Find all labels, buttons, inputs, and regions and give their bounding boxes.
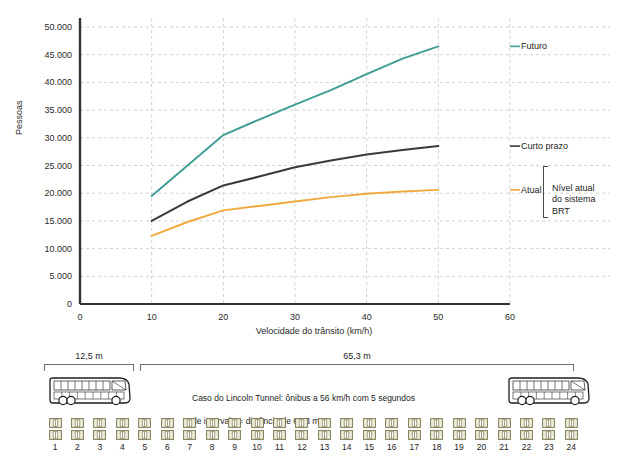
car-number-label: 1 (44, 442, 66, 452)
car-column: 22 (515, 418, 537, 452)
car-top-view-icon (251, 418, 264, 428)
car-top-view-icon (228, 418, 241, 428)
series-label-curto-prazo: Curto prazo (521, 141, 568, 151)
car-top-view-icon (273, 430, 286, 440)
car-top-view-icon (49, 430, 62, 440)
car-number-label: 22 (515, 442, 537, 452)
car-top-view-icon (565, 418, 578, 428)
car-number-label: 3 (89, 442, 111, 452)
car-column: 4 (111, 418, 133, 452)
car-top-view-icon (93, 430, 106, 440)
x-axis-title: Velocidade do trânsito (km/h) (0, 326, 618, 336)
car-top-view-icon (138, 418, 151, 428)
car-column: 19 (448, 418, 470, 452)
car-number-label: 6 (156, 442, 178, 452)
brt-brace (543, 166, 548, 218)
car-column: 2 (66, 418, 88, 452)
car-number-label: 7 (179, 442, 201, 452)
car-top-view-icon (228, 430, 241, 440)
brt-annotation-text: Nível atual do sistema BRT (552, 183, 596, 218)
car-top-view-icon (183, 418, 196, 428)
car-number-label: 18 (426, 442, 448, 452)
car-top-view-icon (93, 418, 106, 428)
car-number-label: 13 (313, 442, 335, 452)
car-column: 20 (471, 418, 493, 452)
car-top-view-icon (542, 430, 555, 440)
brt-note-line-3: BRT (552, 206, 596, 218)
car-top-view-icon (453, 430, 466, 440)
car-number-label: 20 (471, 442, 493, 452)
car-column: 24 (560, 418, 582, 452)
car-top-view-icon (183, 430, 196, 440)
car-column: 15 (358, 418, 380, 452)
car-column: 17 (403, 418, 425, 452)
car-column: 7 (179, 418, 201, 452)
car-top-view-icon (295, 418, 308, 428)
car-row-group: 123456789101112131415161718192021222324 (0, 345, 618, 474)
car-top-view-icon (116, 430, 129, 440)
car-top-view-icon (475, 430, 488, 440)
gridlines (80, 18, 610, 304)
car-number-label: 10 (246, 442, 268, 452)
car-top-view-icon (273, 418, 286, 428)
car-number-label: 12 (291, 442, 313, 452)
car-top-view-icon (318, 430, 331, 440)
car-top-view-icon (385, 418, 398, 428)
car-top-view-icon (161, 418, 174, 428)
car-number-label: 5 (134, 442, 156, 452)
car-column: 14 (336, 418, 358, 452)
car-top-view-icon (318, 418, 331, 428)
car-top-view-icon (520, 418, 533, 428)
car-top-view-icon (251, 430, 264, 440)
car-column: 16 (381, 418, 403, 452)
car-number-label: 8 (201, 442, 223, 452)
car-column: 1 (44, 418, 66, 452)
car-top-view-icon (453, 418, 466, 428)
car-top-view-icon (138, 430, 151, 440)
brt-note-line-1: Nível atual (552, 183, 596, 195)
car-number-label: 17 (403, 442, 425, 452)
car-top-view-icon (542, 418, 555, 428)
car-column: 23 (538, 418, 560, 452)
series-label-atual: Atual (521, 185, 542, 195)
car-column: 21 (493, 418, 515, 452)
car-column: 5 (134, 418, 156, 452)
car-top-view-icon (295, 430, 308, 440)
car-number-label: 14 (336, 442, 358, 452)
car-top-view-icon (430, 418, 443, 428)
car-column: 10 (246, 418, 268, 452)
plot-area (0, 0, 618, 345)
car-column: 3 (89, 418, 111, 452)
car-column: 9 (224, 418, 246, 452)
car-number-label: 21 (493, 442, 515, 452)
car-top-view-icon (385, 430, 398, 440)
car-top-view-icon (363, 418, 376, 428)
car-number-label: 24 (560, 442, 582, 452)
car-top-view-icon (49, 418, 62, 428)
car-top-view-icon (363, 430, 376, 440)
car-top-view-icon (565, 430, 578, 440)
car-number-label: 2 (66, 442, 88, 452)
series-label-futuro: Futuro (521, 41, 547, 51)
car-top-view-icon (430, 430, 443, 440)
car-column: 6 (156, 418, 178, 452)
x-axis-title-text: Velocidade do trânsito (km/h) (256, 326, 373, 336)
car-top-view-icon (116, 418, 129, 428)
car-number-label: 16 (381, 442, 403, 452)
bus-car-diagram: 12,5 m 65,3 m Caso do Lincoln Tunnel: ôn… (0, 345, 618, 474)
car-number-label: 23 (538, 442, 560, 452)
car-column: 8 (201, 418, 223, 452)
car-number-label: 19 (448, 442, 470, 452)
car-top-view-icon (408, 418, 421, 428)
car-top-view-icon (206, 418, 219, 428)
car-top-view-icon (71, 430, 84, 440)
car-top-view-icon (71, 418, 84, 428)
car-top-view-icon (408, 430, 421, 440)
car-number-label: 15 (358, 442, 380, 452)
car-top-view-icon (161, 430, 174, 440)
car-top-view-icon (475, 418, 488, 428)
car-column: 11 (269, 418, 291, 452)
chart-region: Pessoas 05.00010.00015.00020.00025.00030… (0, 0, 618, 345)
car-top-view-icon (498, 418, 511, 428)
car-top-view-icon (340, 418, 353, 428)
